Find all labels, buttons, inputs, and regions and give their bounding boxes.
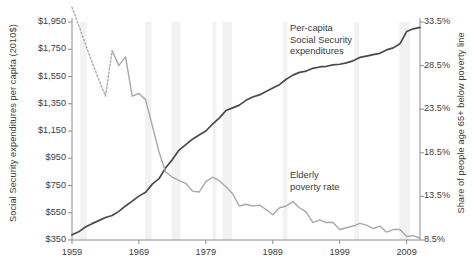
x-tick-label: 1989 <box>249 247 297 257</box>
x-tick-label: 1969 <box>115 247 163 257</box>
y-tick-label-left: $350 <box>46 234 66 244</box>
recession-band <box>145 22 152 240</box>
x-tick-label: 1959 <box>48 247 96 257</box>
y-tick-label-right: 13.5% <box>424 190 450 200</box>
y-tick-label-left: $1,750 <box>38 43 66 53</box>
x-tick-label: 1979 <box>182 247 230 257</box>
y-tick-label-left: $750 <box>46 180 66 190</box>
y-tick-label-left: $550 <box>46 207 66 217</box>
annotation-poverty: Elderly poverty rate <box>290 169 340 192</box>
recession-band <box>354 22 359 240</box>
recession-band <box>213 22 217 240</box>
y-tick-label-right: 8.5% <box>424 234 445 244</box>
y-tick-label-right: 33.5% <box>424 16 450 26</box>
y-tick-label-left: $1,150 <box>38 125 66 135</box>
annotation-expenditures: Per-capita Social Security expenditures <box>290 22 352 57</box>
y-tick-label-left: $1,350 <box>38 98 66 108</box>
y-tick-label-left: $1,950 <box>38 16 66 26</box>
x-tick-label: 1999 <box>316 247 364 257</box>
y-tick-label-left: $950 <box>46 152 66 162</box>
x-tick-label: 2009 <box>383 247 431 257</box>
recession-band <box>172 22 181 240</box>
y-tick-label-right: 18.5% <box>424 147 450 157</box>
y-tick-label-right: 28.5% <box>424 60 450 70</box>
y-tick-label-right: 23.5% <box>424 103 450 113</box>
recession-band <box>80 22 87 240</box>
series-line-poverty-dotted <box>72 7 112 96</box>
y-tick-label-left: $1,550 <box>38 71 66 81</box>
series-line-poverty <box>112 51 420 238</box>
dual-axis-line-chart: Social Security expenditures per capita … <box>0 0 472 271</box>
recession-band <box>399 22 410 240</box>
recession-band <box>223 22 232 240</box>
plot-area <box>0 0 472 271</box>
